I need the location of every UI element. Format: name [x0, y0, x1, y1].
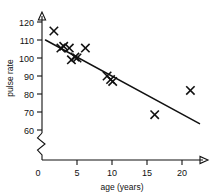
y-tick-label-90: 90 — [24, 72, 34, 82]
x-tick-label-15: 15 — [142, 168, 152, 178]
y-axis-title: pulse rate — [5, 59, 15, 97]
y-axis-break-icon — [38, 133, 46, 160]
y-tick-label-110: 110 — [20, 36, 34, 46]
y-axis: 120 110 100 90 80 70 60 pulse rate — [5, 12, 46, 160]
y-tick-label-100: 100 — [19, 54, 34, 64]
x-axis-title: age (years) — [101, 182, 144, 192]
data-point-marker — [186, 86, 194, 94]
data-point-markers — [50, 27, 195, 119]
y-tick-label-80: 80 — [24, 90, 34, 100]
x-axis: 0 5 10 15 20 age (years) — [35, 156, 208, 192]
plot-canvas: 120 110 100 90 80 70 60 pulse rate 0 5 1… — [0, 0, 216, 192]
y-tick-label-70: 70 — [24, 108, 34, 118]
trend-line-group — [46, 40, 200, 124]
x-tick-label-0: 0 — [35, 168, 40, 178]
data-point-marker — [151, 111, 159, 119]
y-tick-label-60: 60 — [24, 126, 34, 136]
x-tick-label-20: 20 — [177, 168, 187, 178]
trend-line — [46, 40, 200, 124]
y-tick-label-120: 120 — [19, 18, 34, 28]
x-tick-label-5: 5 — [74, 168, 79, 178]
scatter-plot-figure: 120 110 100 90 80 70 60 pulse rate 0 5 1… — [0, 0, 216, 192]
data-point-marker — [50, 27, 58, 35]
data-point-marker — [81, 44, 89, 52]
x-tick-label-10: 10 — [107, 168, 117, 178]
